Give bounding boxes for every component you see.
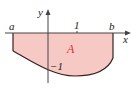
label-x-tick-1: 1	[74, 19, 80, 31]
label-b: b	[109, 20, 115, 32]
y-axis-label: y	[37, 6, 43, 18]
x-axis-label: x	[122, 33, 128, 45]
label-y-tick-neg1: −1	[50, 60, 63, 72]
region-label-A: A	[66, 42, 75, 56]
y-axis-arrow-icon	[46, 9, 51, 15]
area-diagram: y x a b 1 −1 A	[0, 0, 135, 89]
shaded-region	[13, 33, 113, 76]
label-a: a	[9, 20, 15, 32]
